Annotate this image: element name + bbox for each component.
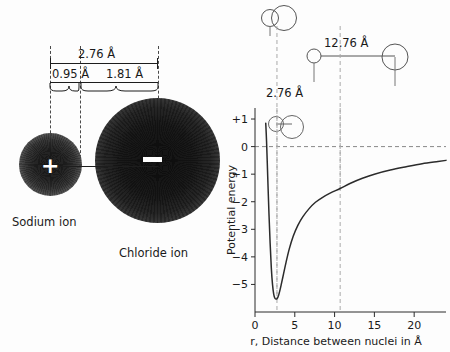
chloride-circle-icon — [272, 6, 297, 31]
caption-sodium-ion: Sodium ion — [12, 217, 77, 229]
tick-labels: 05101520+10−1−2−3−4−5 — [232, 113, 421, 332]
x-tick-label: 0 — [252, 319, 259, 332]
sodium-circle-icon-separated — [307, 49, 321, 63]
leader-line-ion-contact — [80, 46, 81, 168]
plot-canvas: 12.76 Å 2.76 Å 05101520+10−1−2−3−4−5 r, … — [222, 0, 450, 352]
callout-contact-ions — [262, 6, 297, 37]
x-tick-label: 5 — [291, 319, 298, 332]
brace-cation-radius — [50, 83, 79, 91]
label-contact-distance: 2.76 Å — [266, 85, 303, 100]
callout-separated-ions: 12.76 Å — [307, 35, 408, 86]
reference-lines — [255, 26, 446, 312]
chloride-circle-icon-inline — [281, 116, 304, 139]
y-axis-title: Potential energy — [225, 165, 238, 256]
x-tick-label: 15 — [367, 319, 381, 332]
dimension-line-total — [50, 63, 158, 64]
sodium-circle-icon — [262, 10, 279, 27]
figure-root: 2.76 Å 0.95 Å 1.81 Å + Sodium ion Chlori… — [0, 0, 450, 352]
plus-charge-icon: + — [41, 155, 59, 177]
dimension-label-total: 2.76 Å — [78, 49, 115, 61]
dimension-label-anion-radius: 1.81 Å — [106, 69, 143, 81]
caption-chloride-ion: Chloride ion — [119, 248, 188, 260]
brace-group — [48, 82, 162, 98]
ion-pair-diagram: 2.76 Å 0.95 Å 1.81 Å + Sodium ion Chlori… — [0, 0, 222, 352]
internuclear-axis-line — [50, 166, 158, 167]
y-tick-label: 0 — [241, 141, 248, 154]
x-tick-label: 20 — [407, 319, 421, 332]
y-tick-label: +1 — [232, 113, 248, 126]
label-separated-distance: 12.76 Å — [324, 35, 369, 50]
potential-energy-curve — [266, 123, 446, 299]
x-tick-label: 10 — [328, 319, 342, 332]
dimension-label-cation-radius: 0.95 Å — [52, 69, 89, 81]
callout-contact-ions-inline: 2.76 Å — [266, 85, 304, 139]
brace-anion-radius — [81, 83, 158, 91]
x-axis-title: r, Distance between nuclei in Å — [250, 335, 422, 348]
y-tick-label: −5 — [232, 278, 248, 291]
potential-energy-chart: 12.76 Å 2.76 Å 05101520+10−1−2−3−4−5 r, … — [222, 0, 450, 352]
minus-charge-icon — [143, 157, 162, 162]
